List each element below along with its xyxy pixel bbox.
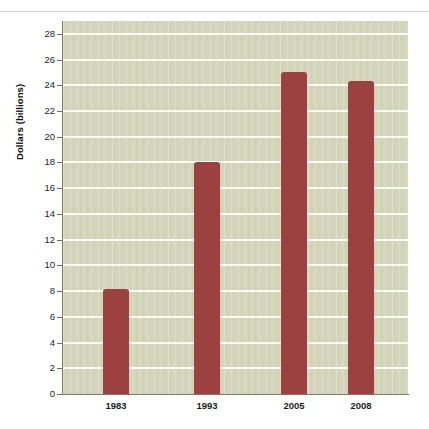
y-tick-label: 18 [33, 157, 55, 167]
bar-1983 [103, 289, 129, 394]
y-tick-label: 16 [33, 183, 55, 193]
y-tick-label: 20 [33, 132, 55, 142]
x-tick-label-1983: 1983 [86, 400, 146, 411]
bar-2005 [281, 72, 307, 394]
y-tick-0: 0 [0, 389, 55, 399]
y-tick-8: 8 [0, 286, 55, 296]
y-tick-label: 10 [33, 260, 55, 270]
y-tick-label: 6 [33, 312, 55, 322]
y-tick-2: 2 [0, 363, 55, 373]
x-tick-label-1993: 1993 [177, 400, 237, 411]
gridline-28 [63, 33, 408, 35]
gridline-26 [63, 59, 408, 61]
x-axis-line [62, 394, 409, 395]
y-tick-label: 28 [33, 29, 55, 39]
y-tick-4: 4 [0, 338, 55, 348]
y-tick-20: 20 [0, 132, 55, 142]
bar-chart-figure: Dollars (billions) 024681012141618202224… [0, 0, 429, 429]
y-tick-label: 0 [33, 389, 55, 399]
y-axis-title: Dollars (billions) [14, 84, 25, 160]
y-tick-22: 22 [0, 106, 55, 116]
y-tick-label: 14 [33, 209, 55, 219]
y-tick-16: 16 [0, 183, 55, 193]
y-tick-12: 12 [0, 235, 55, 245]
y-tick-label: 22 [33, 106, 55, 116]
bar-1993 [194, 162, 220, 394]
y-tick-28: 28 [0, 29, 55, 39]
y-tick-label: 8 [33, 286, 55, 296]
x-tick-label-2005: 2005 [264, 400, 324, 411]
y-tick-10: 10 [0, 260, 55, 270]
y-tick-label: 24 [33, 80, 55, 90]
plot-area [63, 21, 408, 394]
y-tick-6: 6 [0, 312, 55, 322]
y-tick-18: 18 [0, 157, 55, 167]
y-tick-label: 12 [33, 235, 55, 245]
page-top-divider [0, 11, 429, 12]
y-tick-24: 24 [0, 80, 55, 90]
bar-2008 [348, 81, 374, 394]
y-tick-label: 4 [33, 338, 55, 348]
x-tick-label-2008: 2008 [331, 400, 391, 411]
y-tick-label: 26 [33, 55, 55, 65]
y-tick-label: 2 [33, 363, 55, 373]
y-tick-26: 26 [0, 55, 55, 65]
y-tick-14: 14 [0, 209, 55, 219]
